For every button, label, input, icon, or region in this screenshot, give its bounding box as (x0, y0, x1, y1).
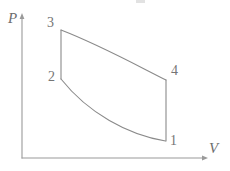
state-label-2: 2 (48, 70, 55, 84)
process-3-to-4 (61, 30, 166, 80)
pv-diagram: P V 3 2 4 1 (0, 0, 230, 171)
pressure-axis-label: P (8, 11, 17, 26)
volume-axis-arrowhead (202, 156, 208, 161)
volume-axis-label: V (209, 141, 218, 156)
state-label-3: 3 (47, 16, 54, 30)
pv-diagram-canvas (0, 0, 230, 171)
volume-axis (22, 156, 208, 161)
state-label-4: 4 (171, 64, 178, 78)
pressure-axis-arrowhead (20, 13, 25, 19)
process-1-to-2 (61, 79, 166, 141)
state-label-1: 1 (170, 134, 177, 148)
pressure-axis (20, 13, 25, 158)
